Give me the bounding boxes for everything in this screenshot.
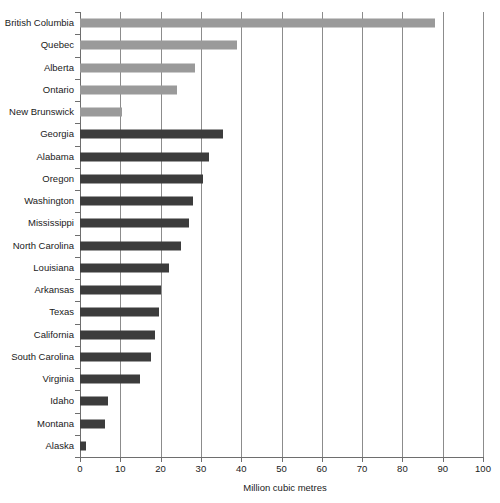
bar bbox=[80, 330, 155, 339]
x-axis-tick-label: 60 bbox=[317, 463, 328, 474]
x-axis-tick bbox=[161, 457, 162, 462]
category-label: Montana bbox=[37, 418, 74, 429]
x-axis-title-text: Million cubic metres bbox=[243, 482, 326, 493]
bar-chart: British ColumbiaQuebecAlbertaOntarioNew … bbox=[0, 0, 500, 503]
x-axis-title: Million cubic metres bbox=[0, 482, 500, 493]
bar bbox=[80, 108, 122, 117]
y-axis-tick bbox=[75, 390, 80, 391]
category-label: California bbox=[34, 329, 74, 340]
y-axis-tick bbox=[75, 301, 80, 302]
bar-row bbox=[80, 123, 483, 145]
y-axis-tick bbox=[75, 346, 80, 347]
plot-area bbox=[80, 12, 483, 457]
y-axis-tick bbox=[75, 101, 80, 102]
y-axis-tick bbox=[75, 34, 80, 35]
category-label: North Carolina bbox=[13, 240, 74, 251]
bar-row bbox=[80, 435, 483, 457]
y-axis-tick bbox=[75, 146, 80, 147]
category-label: Ontario bbox=[43, 84, 74, 95]
y-axis-tick bbox=[75, 123, 80, 124]
x-axis-tick bbox=[80, 457, 81, 462]
y-axis-tick bbox=[75, 212, 80, 213]
bar bbox=[80, 41, 237, 50]
y-axis-tick bbox=[75, 324, 80, 325]
bar bbox=[80, 85, 177, 94]
bar-row bbox=[80, 346, 483, 368]
category-label: Georgia bbox=[40, 128, 74, 139]
x-axis-tick-label: 20 bbox=[155, 463, 166, 474]
bar-row bbox=[80, 368, 483, 390]
y-axis-tick bbox=[75, 257, 80, 258]
y-axis-tick bbox=[75, 413, 80, 414]
bar bbox=[80, 174, 203, 183]
bar bbox=[80, 130, 223, 139]
y-axis-tick bbox=[75, 235, 80, 236]
x-axis-tick bbox=[282, 457, 283, 462]
y-axis-tick bbox=[75, 435, 80, 436]
category-label: New Brunswick bbox=[9, 106, 74, 117]
bar bbox=[80, 219, 189, 228]
bar bbox=[80, 241, 181, 250]
x-axis-tick-label: 90 bbox=[437, 463, 448, 474]
bar-row bbox=[80, 212, 483, 234]
x-axis-tick-label: 0 bbox=[77, 463, 82, 474]
bar bbox=[80, 197, 193, 206]
bar bbox=[80, 286, 161, 295]
bar bbox=[80, 152, 209, 161]
bar-row bbox=[80, 146, 483, 168]
category-label: Idaho bbox=[50, 395, 74, 406]
bar-row bbox=[80, 57, 483, 79]
y-axis-tick bbox=[75, 279, 80, 280]
y-axis-tick bbox=[75, 168, 80, 169]
bar bbox=[80, 352, 151, 361]
y-axis-tick bbox=[75, 368, 80, 369]
bar-row bbox=[80, 279, 483, 301]
x-axis-tick bbox=[483, 457, 484, 462]
bar bbox=[80, 397, 108, 406]
category-label: Alberta bbox=[44, 62, 74, 73]
bar bbox=[80, 375, 140, 384]
bar bbox=[80, 419, 105, 428]
bar-row bbox=[80, 413, 483, 435]
bar-row bbox=[80, 168, 483, 190]
x-axis-tick bbox=[402, 457, 403, 462]
y-axis-tick bbox=[75, 57, 80, 58]
x-axis-tick-label: 40 bbox=[236, 463, 247, 474]
bar-row bbox=[80, 301, 483, 323]
y-axis-tick bbox=[75, 79, 80, 80]
category-label: Oregon bbox=[42, 173, 74, 184]
category-label: Louisiana bbox=[33, 262, 74, 273]
bar-row bbox=[80, 324, 483, 346]
bar-row bbox=[80, 12, 483, 34]
bar-row bbox=[80, 101, 483, 123]
bar-row bbox=[80, 34, 483, 56]
x-axis-tick-label: 100 bbox=[475, 463, 491, 474]
category-label: Quebec bbox=[41, 39, 74, 50]
y-axis-tick bbox=[75, 12, 80, 13]
x-axis-tick-label: 80 bbox=[397, 463, 408, 474]
bar bbox=[80, 263, 169, 272]
category-label: Mississippi bbox=[28, 217, 74, 228]
bar bbox=[80, 19, 435, 28]
bar bbox=[80, 308, 159, 317]
category-label: Alabama bbox=[37, 151, 75, 162]
bar-row bbox=[80, 190, 483, 212]
y-axis-tick bbox=[75, 190, 80, 191]
bar bbox=[80, 441, 86, 450]
bar-row bbox=[80, 235, 483, 257]
x-axis-tick bbox=[362, 457, 363, 462]
bar-row bbox=[80, 79, 483, 101]
bar-row bbox=[80, 257, 483, 279]
category-label: Alaska bbox=[45, 440, 74, 451]
category-label: Arkansas bbox=[34, 284, 74, 295]
x-axis-tick bbox=[443, 457, 444, 462]
x-axis-tick bbox=[241, 457, 242, 462]
category-label: South Carolina bbox=[11, 351, 74, 362]
category-label: British Columbia bbox=[5, 17, 74, 28]
x-axis-tick-label: 70 bbox=[357, 463, 368, 474]
x-axis-tick-label: 30 bbox=[196, 463, 207, 474]
bar-row bbox=[80, 390, 483, 412]
gridline-100 bbox=[483, 12, 484, 457]
x-axis-tick-label: 50 bbox=[276, 463, 287, 474]
x-axis-tick-label: 10 bbox=[115, 463, 126, 474]
